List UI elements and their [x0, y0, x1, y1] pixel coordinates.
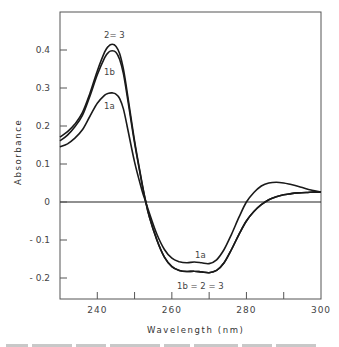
chart-figure: 0.40.30.20.10- 0.1- 0.2 240260280300 2= … [0, 0, 339, 347]
y-tick-label: 0.1 [36, 159, 50, 169]
label-trough-1b-2-3: 1b = 2 = 3 [177, 281, 224, 291]
label-peak-1b: 1b [104, 67, 115, 77]
caption-fragment [6, 341, 336, 347]
label-peak-1a: 1a [104, 101, 115, 111]
curve-1b [60, 51, 321, 273]
y-tick-label: 0.4 [36, 45, 51, 55]
x-tick-label: 260 [162, 305, 182, 315]
data-curves [60, 44, 321, 272]
x-tick-label: 300 [311, 305, 331, 315]
x-tick-label: 240 [87, 305, 107, 315]
plot-frame [60, 12, 321, 299]
label-peak-2-3: 2= 3 [104, 30, 125, 40]
curve-1a [60, 93, 321, 264]
y-tick-label: 0.2 [36, 121, 50, 131]
y-tick-label: - 0.2 [30, 273, 50, 283]
x-axis-title: Wavelength (nm) [147, 325, 244, 335]
y-tick-label: 0.3 [36, 83, 50, 93]
y-tick-label: 0 [44, 197, 50, 207]
label-trough-1a: 1a [195, 250, 206, 260]
y-axis-title: Absorbance [13, 119, 23, 185]
y-tick-label: - 0.1 [30, 235, 50, 245]
curve-2-3 [60, 44, 321, 272]
y-axis-ticks: 0.40.30.20.10- 0.1- 0.2 [30, 45, 67, 283]
x-axis-ticks: 240260280300 [87, 292, 331, 315]
x-tick-label: 280 [236, 305, 256, 315]
